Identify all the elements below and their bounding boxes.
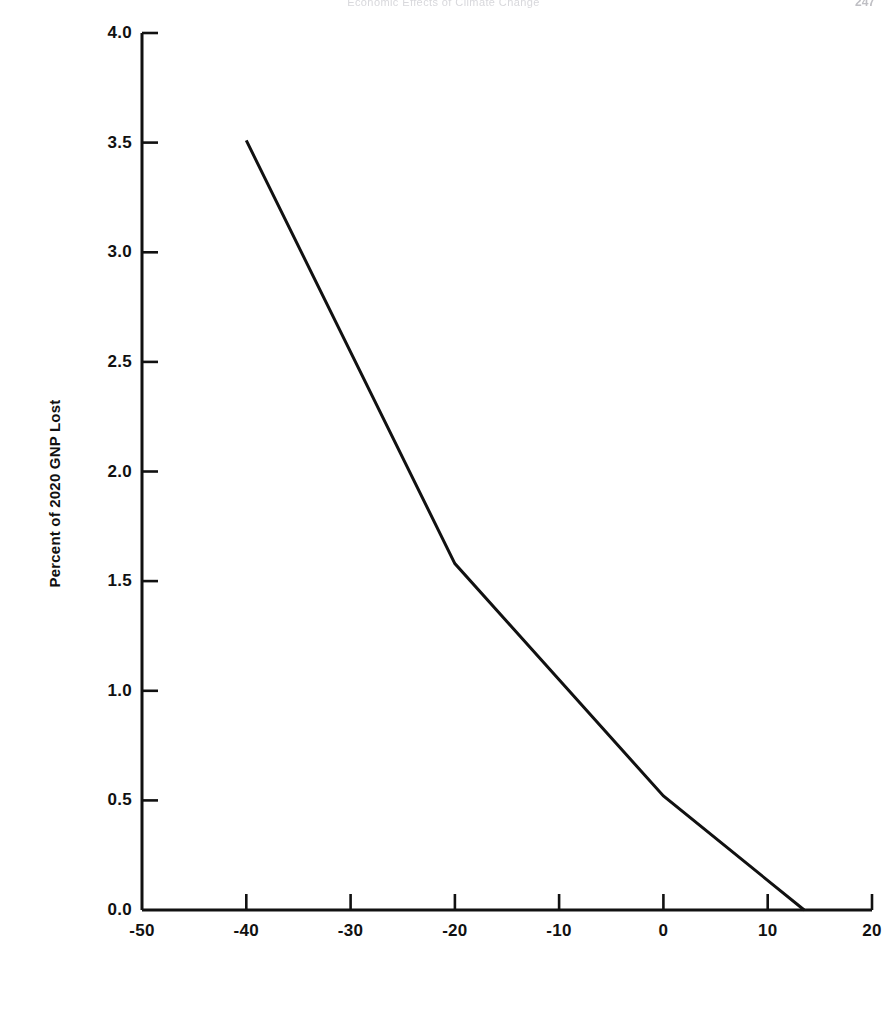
- y-tick-marks: [142, 33, 158, 800]
- plot-canvas: [0, 0, 887, 1009]
- data-series-line: [246, 140, 804, 910]
- figure-chart: Percent of 2020 GNP Lost 4.0 3.5 3.0 2.5…: [0, 0, 887, 1009]
- x-tick-marks: [246, 894, 872, 910]
- scanned-page: Economic Effects of Climate Change 247 P…: [0, 0, 887, 1009]
